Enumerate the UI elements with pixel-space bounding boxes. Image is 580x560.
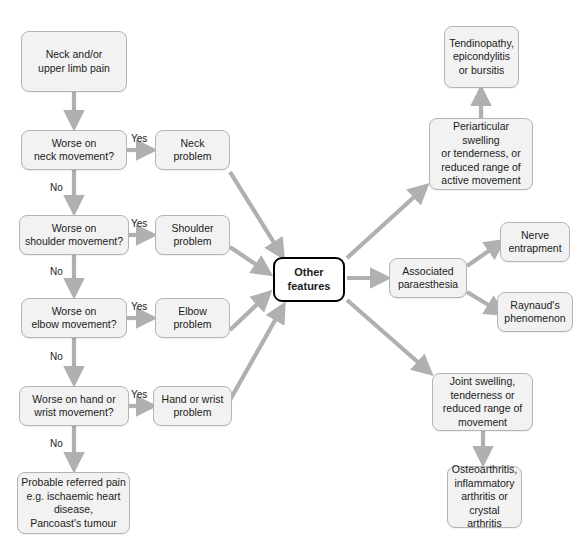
node-question-elbow: Worse on elbow movement? <box>21 298 127 338</box>
node-neck-problem: Neck problem <box>155 130 230 170</box>
node-nerve-entrapment: Nerve entrapment <box>500 222 570 262</box>
node-question-neck: Worse on neck movement? <box>21 130 127 170</box>
node-raynauds-label: Raynaud's phenomenon <box>504 299 565 326</box>
node-joint-swelling: Joint swelling, tenderness or reduced ra… <box>432 373 533 431</box>
edge-elbow-problem-to-other <box>230 295 267 330</box>
node-question-neck-label: Worse on neck movement? <box>34 137 114 164</box>
node-question-hand: Worse on hand or wrist movement? <box>19 386 129 426</box>
edge-paraesthesia-to-raynauds <box>467 292 500 312</box>
node-periarticular-label: Periarticular swelling or tenderness, or… <box>433 120 529 188</box>
edge-neck-problem-to-other <box>230 172 281 254</box>
edge-hand-problem-to-other <box>230 308 282 400</box>
node-osteoarthritis: Osteoarthritis, inflammatory arthritis o… <box>447 466 522 528</box>
edge-label-no-elbow: No <box>50 351 63 363</box>
node-tendinopathy-label: Tendinopathy, epicondylitis or bursitis <box>449 37 514 78</box>
node-hand-problem-label: Hand or wrist problem <box>162 393 224 420</box>
edge-label-no-hand: No <box>50 438 63 450</box>
edge-paraesthesia-to-nerve <box>467 243 500 266</box>
node-start-label: Neck and/or upper limb pain <box>38 48 110 75</box>
edge-other-to-joint-swelling <box>347 300 428 371</box>
node-referred-pain: Probable referred pain e.g. ischaemic he… <box>17 472 130 534</box>
node-shoulder-problem-label: Shoulder problem <box>171 222 213 249</box>
node-hand-problem: Hand or wrist problem <box>153 386 232 426</box>
node-question-shoulder: Worse on shoulder movement? <box>19 215 129 255</box>
edge-label-yes-elbow: Yes <box>131 301 147 313</box>
node-nerve-entrapment-label: Nerve entrapment <box>508 229 561 256</box>
node-osteoarthritis-label: Osteoarthritis, inflammatory arthritis o… <box>451 463 518 531</box>
node-question-hand-label: Worse on hand or wrist movement? <box>32 393 115 420</box>
node-elbow-problem: Elbow problem <box>155 298 230 338</box>
node-other-features: Other features <box>273 257 345 302</box>
edge-shoulder-problem-to-other <box>230 247 267 272</box>
edge-other-to-periarticular <box>347 188 424 258</box>
node-question-shoulder-label: Worse on shoulder movement? <box>25 222 123 249</box>
node-joint-swelling-label: Joint swelling, tenderness or reduced ra… <box>443 375 522 429</box>
edge-label-yes-neck: Yes <box>131 133 147 145</box>
node-paraesthesia-label: Associated paraesthesia <box>398 265 458 292</box>
node-elbow-problem-label: Elbow problem <box>174 305 212 332</box>
node-tendinopathy: Tendinopathy, epicondylitis or bursitis <box>444 26 519 88</box>
node-referred-pain-label: Probable referred pain e.g. ischaemic he… <box>21 476 125 530</box>
edge-label-yes-shoulder: Yes <box>131 218 147 230</box>
node-paraesthesia: Associated paraesthesia <box>389 258 467 298</box>
node-question-elbow-label: Worse on elbow movement? <box>31 305 116 332</box>
node-raynauds: Raynaud's phenomenon <box>497 292 573 332</box>
node-periarticular: Periarticular swelling or tenderness, or… <box>429 118 533 190</box>
node-start: Neck and/or upper limb pain <box>21 31 127 92</box>
flowchart-canvas: Neck and/or upper limb pain Worse on nec… <box>0 0 580 560</box>
edge-label-no-shoulder: No <box>50 266 63 278</box>
edge-label-no-neck: No <box>50 182 63 194</box>
node-other-features-label: Other features <box>288 266 331 293</box>
node-shoulder-problem: Shoulder problem <box>155 215 230 255</box>
edge-label-yes-hand: Yes <box>131 389 147 401</box>
node-neck-problem-label: Neck problem <box>174 137 212 164</box>
